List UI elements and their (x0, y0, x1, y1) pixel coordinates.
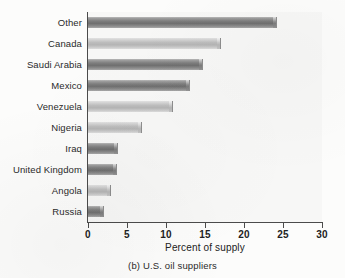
bar (88, 38, 221, 49)
x-tick-label: 0 (75, 229, 101, 240)
bar (88, 101, 173, 112)
x-tick-mark (88, 223, 89, 228)
category-label: Other (0, 17, 82, 28)
bar-track (88, 33, 322, 54)
bar-track (88, 117, 322, 138)
bar-end-cap (186, 80, 189, 91)
category-label: Angola (0, 185, 82, 196)
bar-end-cap (217, 38, 220, 49)
bar-end-cap (199, 59, 202, 70)
bar-track (88, 138, 322, 159)
x-tick-label: 10 (153, 229, 179, 240)
category-label: Canada (0, 38, 82, 49)
bar (88, 185, 111, 196)
x-tick-label: 20 (231, 229, 257, 240)
x-tick-mark (166, 223, 167, 228)
category-label: Saudi Arabia (0, 59, 82, 70)
bar-end-cap (100, 206, 103, 217)
category-label: Mexico (0, 80, 82, 91)
bar (88, 164, 117, 175)
bar-end-cap (169, 101, 172, 112)
x-tick-mark (283, 223, 284, 228)
bar-row: Canada (0, 33, 345, 54)
figure-us-oil-suppliers: OtherCanadaSaudi ArabiaMexicoVenezuelaNi… (0, 0, 345, 278)
bar-track (88, 12, 322, 33)
category-label: Russia (0, 206, 82, 217)
category-label: Venezuela (0, 101, 82, 112)
bar-row: Angola (0, 180, 345, 201)
x-tick-mark (127, 223, 128, 228)
bar (88, 59, 203, 70)
bar-track (88, 180, 322, 201)
bar-track (88, 96, 322, 117)
bar-end-cap (114, 143, 117, 154)
bar-row: Saudi Arabia (0, 54, 345, 75)
bar (88, 122, 142, 133)
bar-row: United Kingdom (0, 159, 345, 180)
bar-track (88, 54, 322, 75)
bar-end-cap (107, 185, 110, 196)
x-tick-label: 30 (309, 229, 335, 240)
x-tick-label: 5 (114, 229, 140, 240)
bar-track (88, 159, 322, 180)
x-tick-mark (205, 223, 206, 228)
x-axis-title: Percent of supply (88, 242, 322, 253)
x-tick-label: 25 (270, 229, 296, 240)
bar-track (88, 75, 322, 96)
category-label: Nigeria (0, 122, 82, 133)
bar (88, 143, 118, 154)
bar-row: Other (0, 12, 345, 33)
bar-row: Russia (0, 201, 345, 222)
figure-caption: (b) U.S. oil suppliers (0, 260, 345, 271)
category-label: Iraq (0, 143, 82, 154)
bar-row: Venezuela (0, 96, 345, 117)
bar-row: Nigeria (0, 117, 345, 138)
bar (88, 17, 277, 28)
category-label: United Kingdom (0, 164, 82, 175)
x-tick-mark (322, 223, 323, 228)
x-tick-label: 15 (192, 229, 218, 240)
bar-track (88, 201, 322, 222)
bar-end-cap (273, 17, 276, 28)
bar (88, 206, 104, 217)
bar (88, 80, 190, 91)
bar-row: Mexico (0, 75, 345, 96)
bar-row: Iraq (0, 138, 345, 159)
bar-end-cap (113, 164, 116, 175)
x-tick-mark (244, 223, 245, 228)
bar-end-cap (138, 122, 141, 133)
